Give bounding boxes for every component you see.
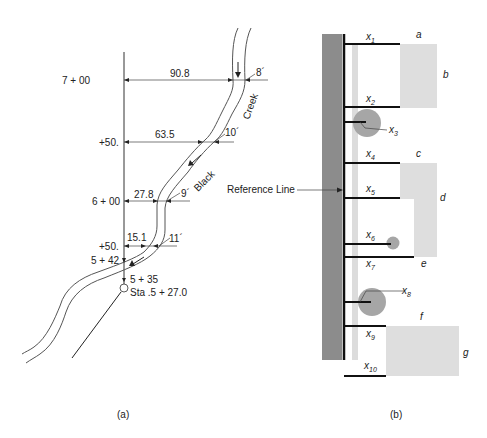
label-x7: x7 <box>365 258 376 271</box>
width-value: 8´ <box>256 67 265 78</box>
label-x10: x10 <box>363 360 377 373</box>
corner-c: c <box>416 148 421 159</box>
station-start: Sta .5 + 27.0 <box>130 287 187 298</box>
station-542: 5 + 42 <box>91 255 120 266</box>
light-strip <box>352 44 358 360</box>
reference-line-label: Reference Line <box>227 184 295 195</box>
caption-a: (a) <box>117 409 129 420</box>
black-label: Black <box>192 168 218 194</box>
offset-value: 63.5 <box>155 129 175 140</box>
flow-arrow-icon <box>188 155 201 166</box>
station-marker <box>120 284 128 292</box>
width-value: 9´ <box>181 188 190 199</box>
offset-value: 27.8 <box>134 189 154 200</box>
corner-a: a <box>416 29 422 40</box>
building-ab <box>400 44 437 108</box>
label-x3: x3 <box>388 124 398 137</box>
label-x9: x9 <box>365 328 375 341</box>
offset-value: 90.8 <box>170 68 190 79</box>
corner-e: e <box>421 258 427 269</box>
label-x4: x4 <box>365 148 375 161</box>
flow-arrow-icon <box>235 62 241 78</box>
corner-f: f <box>420 311 424 322</box>
caption-b: (b) <box>390 409 402 420</box>
offset-value: 15.1 <box>127 232 147 243</box>
station-label: 6 + 00 <box>92 196 121 207</box>
label-x6: x6 <box>365 229 375 242</box>
station-label: +50. <box>99 241 119 252</box>
station-535: 5 + 35 <box>130 274 159 285</box>
creek-label: Creek <box>241 91 261 121</box>
label-x1: x1 <box>365 31 375 44</box>
figure-b: x1 x2 x3 x4 x5 x6 x7 x8 x9 x10 a b c d e… <box>227 29 469 420</box>
label-x2: x2 <box>365 93 375 106</box>
leader-line <box>72 292 121 358</box>
corner-b: b <box>443 69 449 80</box>
creek-bank-left <box>22 28 238 354</box>
wall <box>322 34 342 360</box>
corner-g: g <box>463 347 469 358</box>
corner-d: d <box>440 192 446 203</box>
label-x5: x5 <box>365 183 375 196</box>
figure-a: Creek Black 7 + 00 90.8 8´ +50. 63.5 10´… <box>22 28 268 420</box>
diagram-canvas: Creek Black 7 + 00 90.8 8´ +50. 63.5 10´… <box>0 0 487 438</box>
building-cde <box>400 163 437 257</box>
building-fg <box>386 326 459 376</box>
label-x8: x8 <box>401 285 411 298</box>
width-value: 11´ <box>169 233 183 244</box>
width-value: 10´ <box>225 127 239 138</box>
station-label: 7 + 00 <box>62 75 91 86</box>
station-label: +50. <box>99 137 119 148</box>
